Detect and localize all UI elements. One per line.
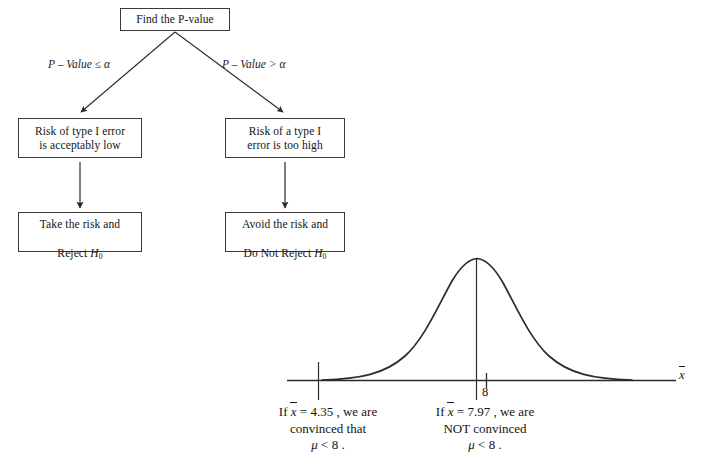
- right-action-box: Avoid the risk and Do Not Reject H0: [225, 212, 345, 252]
- right-annotation-line1-prefix: If: [436, 404, 448, 419]
- right-decision-label: Risk of a type I error is too high: [247, 124, 322, 153]
- right-decision-box: Risk of a type I error is too high: [225, 118, 345, 158]
- left-annotation-line2: convinced that: [243, 421, 413, 438]
- left-action-h-subscript: 0: [99, 252, 103, 261]
- left-decision-box: Risk of type I error is acceptably low: [18, 118, 142, 158]
- right-action-line2-prefix: Do Not Reject: [243, 247, 314, 259]
- x-axis-label: x: [679, 368, 685, 383]
- left-annotation-line3: μ < 8 .: [243, 437, 413, 454]
- left-annotation-line1: If x = 4.35 , we are: [243, 404, 413, 421]
- right-annotation-xbar: x: [448, 404, 454, 421]
- flowchart-root-box: Find the P-value: [120, 8, 230, 31]
- x-axis-label-xbar: x: [679, 368, 685, 383]
- branch-arrow-left: [81, 32, 175, 112]
- left-annotation-xbar: x: [291, 404, 297, 421]
- normal-curve-path: [322, 259, 632, 381]
- branch-label-right: P – Value > α: [222, 58, 285, 70]
- left-annotation-line3-rest: < 8 .: [318, 437, 345, 452]
- right-annotation-line1-rest: = 7.97 , we are: [454, 404, 535, 419]
- branch-label-left: P – Value ≤ α: [48, 58, 110, 70]
- right-action-h-subscript: 0: [323, 252, 327, 261]
- left-decision-label: Risk of type I error is acceptably low: [35, 124, 125, 153]
- right-annotation-text: If x = 7.97 , we are NOT convinced μ < 8…: [400, 404, 570, 454]
- left-annotation-text: If x = 4.35 , we are convinced that μ < …: [243, 404, 413, 454]
- branch-arrow-right: [175, 32, 283, 112]
- left-annotation-line1-rest: = 4.35 , we are: [297, 404, 378, 419]
- right-annotation-line3-rest: < 8 .: [475, 437, 502, 452]
- right-annotation-line3: μ < 8 .: [400, 437, 570, 454]
- right-action-h-symbol: H: [314, 247, 322, 259]
- right-annotation-line2: NOT convinced: [400, 421, 570, 438]
- right-action-text: Avoid the risk and Do Not Reject H0: [242, 203, 328, 262]
- left-annotation-line1-prefix: If: [279, 404, 291, 419]
- left-action-text: Take the risk and Reject H0: [40, 203, 120, 262]
- flowchart-root-label: Find the P-value: [136, 12, 214, 26]
- right-action-line1: Avoid the risk and: [242, 218, 328, 230]
- left-action-box: Take the risk and Reject H0: [18, 212, 142, 252]
- center-tick-label: 8: [482, 385, 488, 400]
- figure-canvas: Find the P-value P – Value ≤ α P – Value…: [0, 0, 702, 468]
- left-action-line1: Take the risk and: [40, 218, 120, 230]
- left-action-line2-prefix: Reject: [57, 247, 90, 259]
- right-annotation-line1: If x = 7.97 , we are: [400, 404, 570, 421]
- left-action-h-symbol: H: [90, 247, 98, 259]
